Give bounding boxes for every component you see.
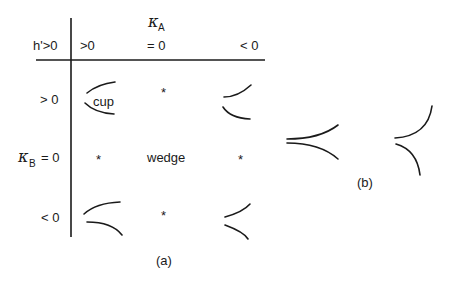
row-header-positive: > 0 <box>40 92 58 107</box>
row-header-negative: < 0 <box>41 210 59 225</box>
lower-curve <box>225 225 248 239</box>
caption-a: (a) <box>156 253 172 268</box>
upper-curve <box>224 85 251 97</box>
upper-curve <box>225 204 250 217</box>
lower-curve <box>223 107 250 119</box>
upper-curve <box>84 202 120 214</box>
kappa-b-subscript: B <box>29 158 36 169</box>
row-header-zero: = 0 <box>41 150 59 165</box>
kappa-a-subscript: A <box>158 22 165 33</box>
cusp-lower-branch <box>396 144 420 175</box>
cup-upper-curve <box>87 82 115 93</box>
cusp-upper-branch <box>287 125 338 139</box>
cusp-lower-branch <box>287 143 338 159</box>
column-header-zero: = 0 <box>147 38 165 53</box>
kappa-b-symbol: κ <box>17 147 29 166</box>
singular-star: * <box>161 85 166 100</box>
caption-b: (b) <box>357 175 373 190</box>
singular-star: * <box>161 208 166 223</box>
column-header-negative: < 0 <box>240 38 258 53</box>
cusp-upper-branch <box>395 106 432 138</box>
column-header-positive: >0 <box>80 38 95 53</box>
corner-label: h'>0 <box>33 38 58 53</box>
lower-curve <box>87 222 122 235</box>
wedge-label: wedge <box>146 150 185 165</box>
diagram: κ A h'>0 >0 = 0 < 0 > 0 κ B = 0 < 0 cup … <box>0 0 450 282</box>
singular-star: * <box>238 152 243 167</box>
singular-star: * <box>96 152 101 167</box>
cup-label: cup <box>93 94 114 109</box>
